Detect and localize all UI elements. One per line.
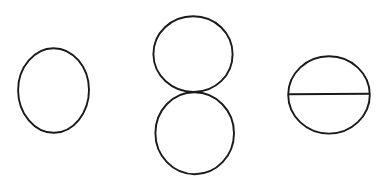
tangent-lower-circle-outline xyxy=(155,92,234,174)
figure-single-circle xyxy=(18,48,89,133)
single-circle-outline xyxy=(18,48,89,133)
tangent-upper-circle-outline xyxy=(153,16,232,92)
diagram-canvas: Geometric Figures xyxy=(0,0,388,189)
diagram-svg xyxy=(0,0,388,189)
figure-tangent-circles xyxy=(153,16,234,174)
figure-circle-with-diameter xyxy=(288,56,370,133)
